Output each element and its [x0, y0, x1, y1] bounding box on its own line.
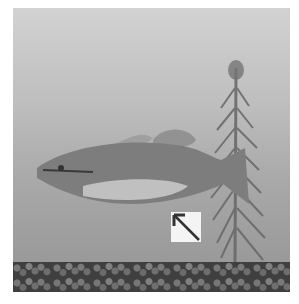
fish	[37, 130, 249, 205]
scene-illustration	[13, 8, 290, 292]
arrow-icon	[171, 212, 201, 242]
gravel-substrate	[13, 262, 290, 292]
arrow-nw-icon	[171, 212, 201, 242]
aquarium-scene	[13, 8, 290, 292]
